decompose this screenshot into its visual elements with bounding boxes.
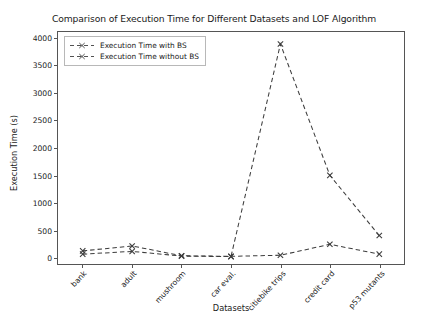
y-tick-label: 2500 <box>33 116 52 125</box>
chart-title: Comparison of Execution Time for Differe… <box>0 13 428 24</box>
y-axis-label: Execution Time (s) <box>9 88 19 218</box>
series-line <box>83 44 380 257</box>
y-tick-label: 1000 <box>33 199 52 208</box>
legend-line-sample-1 <box>69 52 95 61</box>
y-tick-label: 0 <box>47 254 52 263</box>
y-tick-label: 3500 <box>33 61 52 70</box>
y-tick-label: 500 <box>38 226 53 235</box>
data-point-marker <box>377 233 382 238</box>
y-tick-label: 1500 <box>33 171 52 180</box>
y-tick-label: 2000 <box>33 144 52 153</box>
plot-area: Execution Time with BS Execution Time wi… <box>57 31 405 265</box>
legend-label-0: Execution Time with BS <box>100 41 187 50</box>
y-tick-label: 4000 <box>33 33 52 42</box>
legend-item: Execution Time with BS <box>69 40 199 51</box>
y-axis-tick-labels: 05001000150020002500300035004000 <box>23 31 52 265</box>
x-axis-tick-labels: bankadultmushroomcar eval.citiebike trip… <box>57 265 405 323</box>
data-point-marker <box>327 173 332 178</box>
x-tick-label: adult <box>0 269 138 324</box>
legend-line-sample-0 <box>69 41 95 50</box>
chart-figure: Comparison of Execution Time for Differe… <box>0 0 428 324</box>
y-tick-label: 3000 <box>33 88 52 97</box>
plot-svg <box>58 32 404 264</box>
legend-label-1: Execution Time without BS <box>100 52 199 61</box>
data-point-marker <box>377 251 382 256</box>
series-1 <box>80 41 382 259</box>
chart-legend: Execution Time with BS Execution Time wi… <box>64 36 206 66</box>
x-tick-label: bank <box>0 269 88 324</box>
legend-item: Execution Time without BS <box>69 51 199 62</box>
